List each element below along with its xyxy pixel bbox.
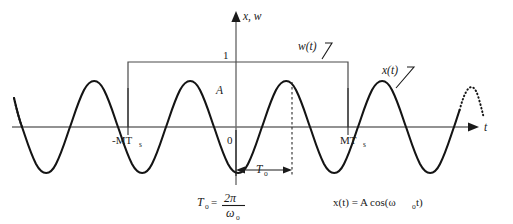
- signal-callout-group: x(t): [381, 64, 414, 88]
- period-formula-group: T o = 2π ω o: [197, 191, 245, 222]
- vertical-axis-label: x, w: [242, 10, 262, 23]
- period-label: T: [256, 163, 264, 175]
- period-label-subscript: o: [264, 169, 268, 178]
- window-signal-label: w(t): [298, 40, 317, 53]
- period-formula-numerator: 2π: [224, 191, 237, 205]
- left-window-edge-label: -MT: [112, 134, 132, 146]
- t-axis-label: t: [484, 121, 488, 133]
- signal-formula-main: x(t) = A cos(ω: [333, 196, 396, 209]
- wave-left-peak-fill: [14, 98, 22, 127]
- window-function-path: [128, 62, 348, 127]
- time-signal-label: x(t): [381, 64, 398, 77]
- period-formula-equals: =: [211, 196, 217, 208]
- vertical-axis-arrowhead: [231, 11, 240, 22]
- window-level-label: 1: [223, 49, 229, 61]
- signal-formula-group: x(t) = A cos(ω o t): [333, 196, 423, 211]
- amplitude-label: A: [215, 84, 224, 96]
- window-callout-leader: [322, 43, 332, 59]
- wave-left-partial-peak: [14, 98, 22, 127]
- signal-formula-tail: t): [416, 196, 423, 209]
- origin-label: 0: [227, 134, 233, 146]
- window-rectangle: [128, 62, 348, 127]
- wave-right-dotted-continuation: [460, 87, 484, 117]
- left-window-edge-subscript: s: [139, 140, 142, 149]
- period-dimension-group: T o: [236, 82, 292, 178]
- window-callout-group: w(t): [298, 40, 332, 59]
- right-window-edge-subscript: s: [363, 140, 366, 149]
- figure-container: t x, w -: [0, 0, 513, 224]
- signal-diagram-svg: t x, w -: [0, 0, 513, 224]
- t-axis-arrowhead: [468, 122, 479, 131]
- signal-callout-leader: [396, 67, 414, 88]
- period-right-arrowhead: [283, 166, 292, 173]
- period-formula-denominator: ω: [226, 206, 234, 220]
- window-edge-ticks: [128, 88, 348, 135]
- axis-tick-labels: -MT s MT s 0 1 A: [112, 49, 366, 149]
- period-formula-lhs: T: [197, 195, 205, 209]
- period-formula-denominator-subscript: o: [236, 213, 240, 222]
- period-formula-lhs-subscript: o: [205, 202, 209, 211]
- t-axis-group: t: [12, 121, 488, 133]
- right-window-edge-label: MT: [340, 134, 357, 146]
